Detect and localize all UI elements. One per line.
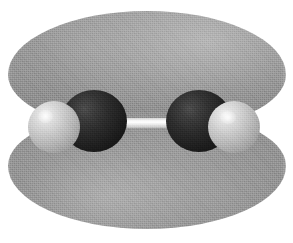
figure-caption bbox=[0, 0, 1, 1]
orbital-waist-notch-right bbox=[269, 104, 293, 136]
atom-hydrogen-left bbox=[28, 101, 80, 153]
atom-hydrogen-right bbox=[208, 101, 260, 153]
specular-highlight-hydrogen-left bbox=[38, 110, 53, 123]
specular-highlight-hydrogen-right bbox=[220, 111, 236, 124]
molecular-orbital-figure bbox=[0, 0, 293, 243]
orbital-waist-notch-left bbox=[0, 104, 24, 136]
